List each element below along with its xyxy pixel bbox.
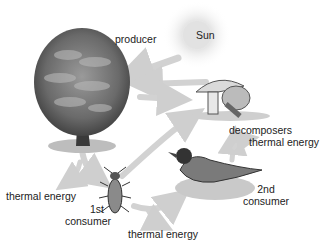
arrow-consumer1-to-thermal bbox=[148, 210, 160, 224]
arrow-consumer1-to-consumer2 bbox=[134, 200, 176, 209]
arrow-sun-to-producer bbox=[133, 58, 178, 74]
label-thermal-energy-consumer1: thermal energy bbox=[128, 228, 198, 240]
arrow-consumer2-to-decomposers bbox=[232, 140, 234, 160]
label-thermal-energy-producer: thermal energy bbox=[6, 190, 76, 202]
label-producer: producer bbox=[115, 33, 156, 45]
label-1st: 1st bbox=[64, 203, 112, 215]
ecosystem-diagram: Sun producer decomposers thermal energy … bbox=[0, 0, 328, 246]
label-decomposers: decomposers bbox=[229, 124, 292, 136]
label-consumer-2: consumer bbox=[238, 195, 294, 207]
arrow-producer-to-thermal bbox=[68, 162, 80, 182]
label-consumer-1: consumer bbox=[64, 215, 112, 227]
label-2nd: 2nd bbox=[238, 183, 294, 195]
label-thermal-energy-decomposers: thermal energy bbox=[249, 136, 319, 148]
mushroom-icon bbox=[190, 80, 270, 121]
tree-icon bbox=[34, 28, 130, 153]
label-sun: Sun bbox=[196, 29, 215, 41]
arrow-producer-to-decomposers bbox=[140, 97, 175, 99]
label-1st-consumer: 1st consumer bbox=[64, 203, 112, 227]
diagram-graphics bbox=[0, 0, 328, 246]
label-2nd-consumer: 2nd consumer bbox=[238, 183, 294, 207]
arrow-producer-to-consumer1 bbox=[82, 150, 98, 178]
arrow-decomposers-to-producer bbox=[145, 82, 206, 84]
arrow-consumer1-to-decomposers bbox=[122, 118, 190, 176]
